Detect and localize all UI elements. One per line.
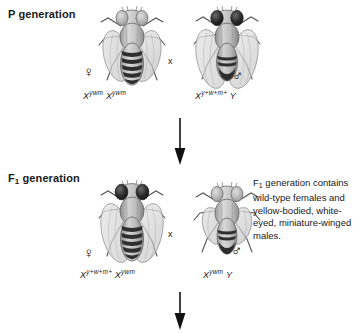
p-generation-cross-symbol: x xyxy=(168,56,173,66)
f1-generation-female-sex-symbol: ♀ xyxy=(83,245,94,260)
f1-generation-label: F1 generation xyxy=(8,172,80,186)
arrow-p-to-f1 xyxy=(172,118,188,170)
f1-female-genotype-allele2: ywm xyxy=(121,268,135,275)
p-generation-label-text: generation xyxy=(15,8,75,20)
cross-diagram-canvas: P generation xyxy=(0,0,362,333)
f1-male-genotype-allele: ywm xyxy=(209,268,223,275)
f1-generation-female-fly-illustration xyxy=(96,177,168,265)
f1-generation-male-sex-symbol: ♂ xyxy=(231,243,242,258)
p-generation-female-fly-illustration xyxy=(96,4,168,90)
f1-generation-male-genotype: Xywm Y xyxy=(203,270,232,280)
p-generation-male-fly-illustration xyxy=(192,4,262,90)
p-generation-female-genotype: Xywm Xywm xyxy=(83,91,126,101)
f1-male-genotype-y: Y xyxy=(226,270,232,280)
f1-generation-caption: F1 generation contains wild-type females… xyxy=(253,177,358,242)
p-female-genotype-allele2: ywm xyxy=(112,89,126,96)
p-female-genotype-allele1: ywm xyxy=(89,89,103,96)
p-generation-male-genotype: Xy+w+m+ Y xyxy=(195,91,236,101)
f1-caption-body: generation contains wild-type females an… xyxy=(253,177,351,241)
p-generation-female-sex-symbol: ♀ xyxy=(83,64,94,79)
f1-generation-cross-symbol: x xyxy=(168,229,173,239)
f1-female-genotype-allele1: y+w+m+ xyxy=(86,268,112,275)
p-generation-label: P generation xyxy=(8,8,76,20)
f1-generation-male-fly-illustration xyxy=(192,180,262,262)
f1-generation-label-prefix: F xyxy=(8,172,15,184)
arrow-f1-to-f2 xyxy=(172,292,188,333)
f1-generation-female-genotype: Xy+w+m+ Xywm xyxy=(80,270,135,280)
f1-generation-label-text: generation xyxy=(19,172,79,184)
p-male-genotype-allele: y+w+m+ xyxy=(201,89,227,96)
p-male-genotype-y: Y xyxy=(230,91,236,101)
p-generation-male-sex-symbol: ♂ xyxy=(232,68,243,83)
